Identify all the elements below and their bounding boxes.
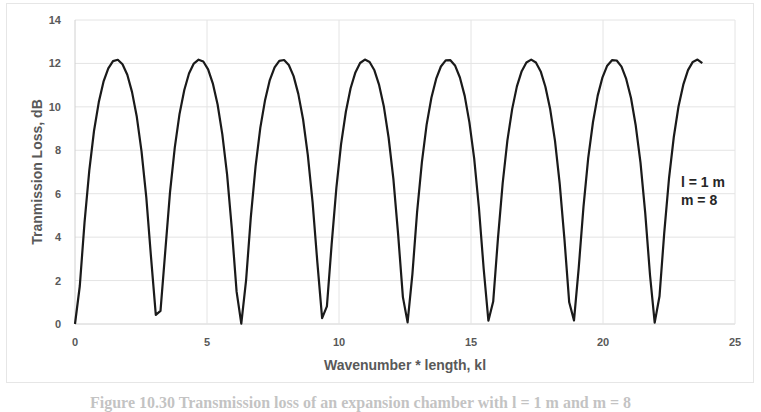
gridlines [75, 20, 735, 324]
x-tick-label: 20 [597, 336, 609, 348]
y-tick-label: 12 [49, 57, 61, 69]
x-axis-title: Wavenumber * length, kl [324, 357, 486, 373]
y-tick-label: 14 [49, 14, 62, 26]
y-tick-label: 6 [55, 188, 61, 200]
y-tick-label: 10 [49, 101, 61, 113]
y-tick-label: 4 [55, 231, 62, 243]
x-tick-label: 15 [465, 336, 477, 348]
y-tick-label: 2 [55, 275, 61, 287]
annotation-length: l = 1 m [681, 174, 725, 190]
y-tick-label: 8 [55, 144, 61, 156]
y-tick-label: 0 [55, 318, 61, 330]
x-tick-label: 5 [204, 336, 210, 348]
x-axis-ticks: 0510152025 [72, 336, 741, 348]
x-tick-label: 10 [333, 336, 345, 348]
figure-caption: Figure 10.30 Transmission loss of an exp… [90, 394, 631, 412]
y-axis-title: Tranmission Loss, dB [29, 99, 45, 244]
transmission-loss-curve [75, 60, 702, 324]
x-tick-label: 0 [72, 336, 78, 348]
x-tick-label: 25 [729, 336, 741, 348]
annotation-m: m = 8 [681, 192, 717, 208]
y-axis-ticks: 02468101214 [49, 14, 62, 330]
